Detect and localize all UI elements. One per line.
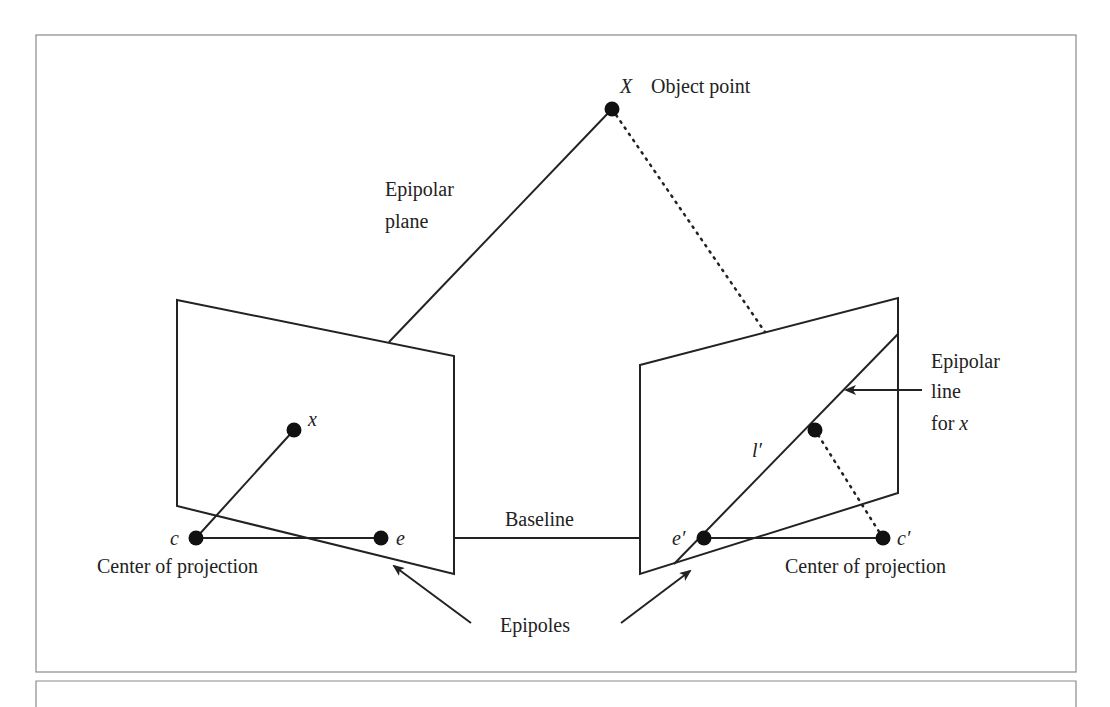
label-center-of-projection-left: Center of projection [97,555,258,578]
epipole-e [374,531,389,546]
center-c [189,531,204,546]
label-object-point: Object point [651,75,751,98]
label-baseline: Baseline [505,508,574,530]
label-for: for [931,412,959,434]
epipolar-geometry-diagram: X Object point Epipolar plane x c e Cent… [0,0,1110,707]
label-epipoles: Epipoles [500,614,570,637]
label-center-of-projection-right: Center of projection [785,555,946,578]
label-l-prime: l′ [752,439,763,461]
label-epipolar-line-2: line [931,380,961,402]
label-X-symbol: X [619,75,633,97]
ray-x-to-right-plane-dotted [612,109,765,332]
label-epipolar-line-1: Epipolar [931,350,1000,373]
object-point-X [605,102,620,117]
point-on-epipolar-line [808,423,823,438]
label-epipolar-plane-1: Epipolar [385,178,454,201]
left-image-plane [177,300,454,574]
center-c-prime [876,531,891,546]
label-e: e [396,527,405,549]
epipole-e-prime [697,531,712,546]
label-e-prime: e′ [672,527,686,549]
arrow-epipole-left [394,566,471,623]
image-point-x [287,423,302,438]
label-for-x: x [958,412,968,434]
label-c: c [170,527,179,549]
label-epipolar-line-3: for x [931,412,968,434]
arrow-epipole-right [621,571,690,623]
label-x: x [307,408,317,430]
label-c-prime: c′ [897,527,911,549]
label-epipolar-plane-2: plane [385,210,428,233]
next-figure-frame [36,681,1076,707]
